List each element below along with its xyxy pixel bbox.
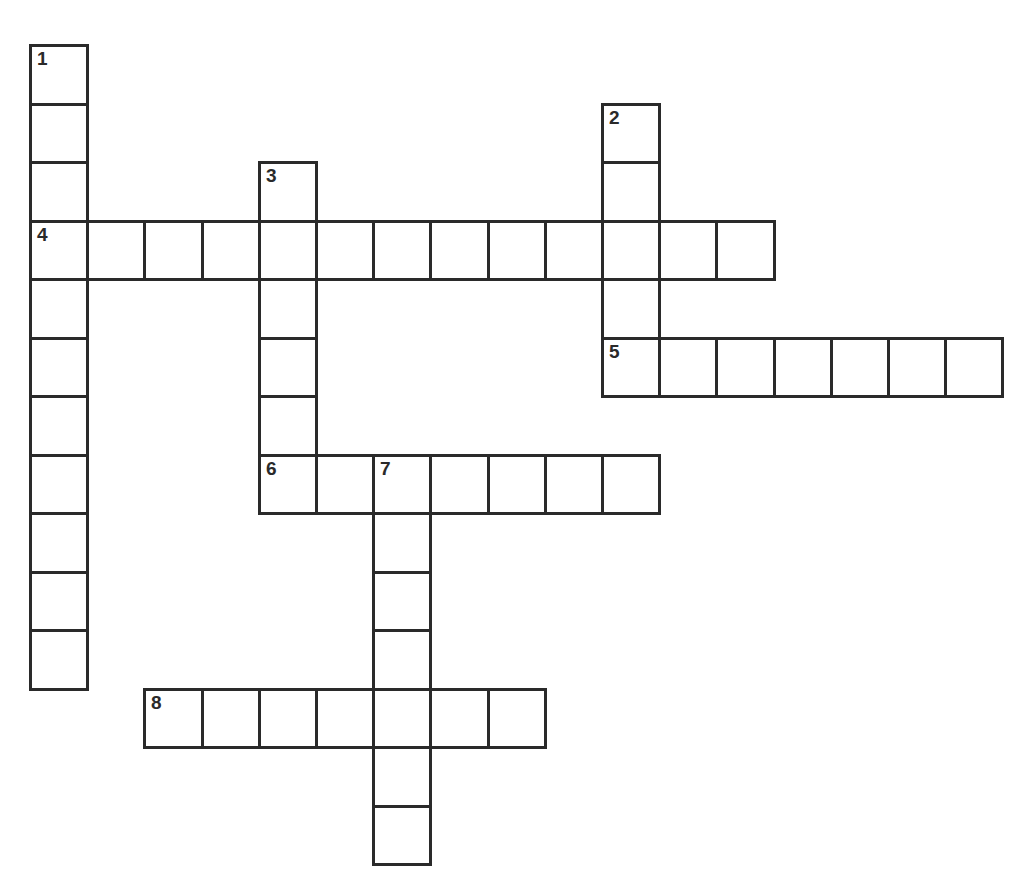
crossword-cell[interactable] — [29, 103, 89, 164]
crossword-cell[interactable] — [315, 688, 375, 749]
clue-number: 7 — [380, 459, 391, 478]
crossword-cell[interactable] — [372, 805, 432, 866]
crossword-cell[interactable]: 5 — [601, 337, 661, 398]
crossword-cell[interactable]: 2 — [601, 103, 661, 164]
crossword-cell[interactable] — [258, 395, 318, 457]
crossword-cell[interactable] — [487, 688, 547, 749]
crossword-cell[interactable] — [601, 454, 661, 515]
crossword-cell[interactable]: 7 — [372, 454, 432, 515]
crossword-cell[interactable] — [429, 688, 490, 749]
crossword-cell[interactable] — [487, 220, 547, 281]
clue-number: 5 — [609, 342, 620, 361]
crossword-cell[interactable]: 3 — [258, 161, 318, 223]
clue-number: 3 — [266, 166, 277, 185]
crossword-cell[interactable] — [372, 688, 432, 749]
crossword-cell[interactable] — [601, 220, 661, 281]
crossword-cell[interactable] — [372, 629, 432, 691]
crossword-cell[interactable] — [372, 571, 432, 632]
crossword-cell[interactable]: 4 — [29, 220, 89, 281]
crossword-cell[interactable]: 1 — [29, 44, 89, 106]
crossword-cell[interactable] — [201, 220, 261, 281]
crossword-cell[interactable] — [544, 454, 604, 515]
crossword-cell[interactable] — [258, 337, 318, 398]
crossword-cell[interactable] — [773, 337, 833, 398]
crossword-cell[interactable] — [544, 220, 604, 281]
crossword-grid: 14236578 — [0, 0, 1018, 893]
crossword-cell[interactable] — [29, 512, 89, 574]
crossword-cell[interactable] — [429, 454, 490, 515]
crossword-cell[interactable] — [429, 220, 490, 281]
crossword-cell[interactable] — [29, 161, 89, 223]
crossword-cell[interactable] — [715, 220, 776, 281]
crossword-cell[interactable] — [372, 512, 432, 574]
crossword-cell[interactable] — [29, 395, 89, 457]
crossword-cell[interactable] — [658, 220, 718, 281]
crossword-cell[interactable] — [715, 337, 776, 398]
clue-number: 4 — [37, 225, 48, 244]
crossword-cell[interactable] — [29, 278, 89, 340]
crossword-cell[interactable] — [258, 278, 318, 340]
crossword-cell[interactable] — [315, 454, 375, 515]
crossword-cell[interactable] — [658, 337, 718, 398]
crossword-cell[interactable] — [601, 161, 661, 223]
crossword-cell[interactable] — [86, 220, 146, 281]
crossword-cell[interactable] — [487, 454, 547, 515]
crossword-cell[interactable] — [29, 454, 89, 515]
crossword-cell[interactable] — [315, 220, 375, 281]
crossword-cell[interactable]: 6 — [258, 454, 318, 515]
crossword-cell[interactable] — [29, 571, 89, 632]
crossword-cell[interactable] — [143, 220, 204, 281]
clue-number: 6 — [266, 459, 277, 478]
clue-number: 8 — [151, 693, 162, 712]
crossword-cell[interactable] — [944, 337, 1004, 398]
clue-number: 1 — [37, 49, 48, 68]
crossword-cell[interactable] — [887, 337, 947, 398]
crossword-cell[interactable] — [29, 629, 89, 691]
crossword-cell[interactable] — [372, 220, 432, 281]
clue-number: 2 — [609, 108, 620, 127]
crossword-cell[interactable]: 8 — [143, 688, 204, 749]
crossword-cell[interactable] — [601, 278, 661, 340]
crossword-cell[interactable] — [258, 220, 318, 281]
crossword-cell[interactable] — [201, 688, 261, 749]
crossword-cell[interactable] — [372, 746, 432, 808]
crossword-cell[interactable] — [830, 337, 890, 398]
crossword-cell[interactable] — [29, 337, 89, 398]
crossword-cell[interactable] — [258, 688, 318, 749]
